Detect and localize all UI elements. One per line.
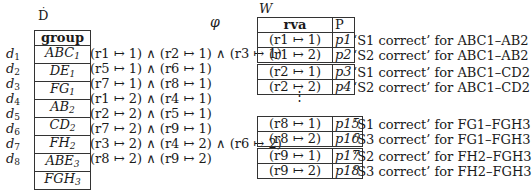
rva-description: ‘S2 correct’ for ABC1–CD2 <box>353 80 530 95</box>
group-table: group ABC1 DE1 FG1 AB2 CD2 FH2 ABE3 FGH3 <box>34 30 91 190</box>
rva-header: rva <box>258 18 333 33</box>
phi-header: φ <box>210 14 220 30</box>
group-cell: CD2 <box>35 118 91 136</box>
rva-cell: (r9 ↦ 2) <box>258 164 333 179</box>
p-cell: p2 <box>333 48 355 63</box>
rva-description: ‘S1 correct’ for FG1–FGH3 <box>353 117 531 132</box>
phi-formula: (r2 ↦ 2) ∧ (r5 ↦ 1) <box>90 106 212 121</box>
phi-formula: (r8 ↦ 2) ∧ (r9 ↦ 2) <box>90 151 212 166</box>
rva-description: ‘S2 correct’ for FH2–FGH3 <box>353 149 532 164</box>
phi-formula: (r3 ↦ 2) ∧ (r4 ↦ 2) ∧ (r6 ↦ 2) <box>90 136 282 151</box>
rva-table-block-2: (r2 ↦ 1)p3 (r2 ↦ 2)p4 <box>257 64 355 95</box>
rva-description: ‘S1 correct’ for ABC1–AB2 <box>353 33 529 48</box>
rva-description: ‘S1 correct’ for ABC1–CD2 <box>353 65 530 80</box>
group-cell: FH2 <box>35 136 91 154</box>
group-cell: ABC1 <box>35 46 91 64</box>
rva-table-block-3: (r8 ↦ 1)p15 (r8 ↦ 2)p16 <box>257 116 363 147</box>
rva-table-block-4: (r9 ↦ 1)p17 (r9 ↦ 2)p18 <box>257 148 363 179</box>
rva-cell: (r1 ↦ 1) <box>258 33 333 48</box>
p-cell: p4 <box>333 80 355 95</box>
p-header: P <box>333 18 355 33</box>
rva-cell: (r1 ↦ 2) <box>258 48 333 63</box>
phi-formula: (r7 ↦ 1) ∧ (r8 ↦ 1) <box>90 76 212 91</box>
phi-formula: (r7 ↦ 2) ∧ (r9 ↦ 1) <box>90 121 212 136</box>
p-cell: p3 <box>333 65 355 80</box>
rva-description: ‘S3 correct’ for FH2–FGH3 <box>353 164 532 179</box>
rva-description: ‘S3 correct’ for FG1–FGH3 <box>353 132 531 147</box>
group-cell: DE1 <box>35 64 91 82</box>
phi-formula: (r1 ↦ 2) ∧ (r4 ↦ 1) <box>90 91 212 106</box>
dot-accent: · <box>42 2 45 13</box>
rva-table-block-1: rvaP (r1 ↦ 1)p1 (r1 ↦ 2)p2 <box>257 17 355 63</box>
phi-formula: (r5 ↦ 1) ∧ (r6 ↦ 1) <box>90 61 212 76</box>
p-cell: p1 <box>333 33 355 48</box>
table-d-title: ·D <box>38 8 48 23</box>
rva-cell: (r8 ↦ 1) <box>258 117 333 132</box>
rva-cell: (r9 ↦ 1) <box>258 149 333 164</box>
rva-cell: (r8 ↦ 2) <box>258 132 333 147</box>
group-cell: ABE3 <box>35 154 91 172</box>
group-cell: AB2 <box>35 100 91 118</box>
row-label: d8 <box>6 151 20 170</box>
group-header: group <box>35 31 91 46</box>
group-cell: FG1 <box>35 82 91 100</box>
table-w-title: W <box>259 1 272 16</box>
phi-formula: (r1 ↦ 1) ∧ (r2 ↦ 1) ∧ (r3 ↦ 1) <box>90 46 282 61</box>
rva-description: ‘S2 correct’ for ABC1–AB2 <box>353 48 529 63</box>
group-cell: FGH3 <box>35 172 91 190</box>
rva-cell: (r2 ↦ 1) <box>258 65 333 80</box>
vertical-ellipsis: ⋮ <box>293 93 306 98</box>
